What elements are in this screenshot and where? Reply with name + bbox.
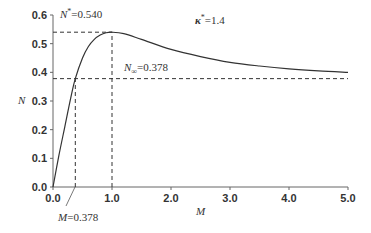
y-axis-label: N [17, 94, 26, 106]
reference-lines [53, 32, 348, 187]
annotation-n-inf: N∞=0.378 [123, 61, 169, 76]
y-tick-label: 0.3 [32, 95, 47, 107]
x-axis-label: M [195, 205, 206, 217]
y-tick-label: 0.2 [32, 124, 47, 136]
y-tick-label: 0.6 [32, 9, 47, 21]
annotation-m: M=0.378 [57, 211, 99, 223]
x-tick-label: 4.0 [281, 192, 296, 204]
annotation-kappa: κ*=1.4 [195, 13, 225, 26]
annotation-n-star: N*=0.540 [59, 7, 103, 20]
y-tick-label: 0.4 [32, 66, 48, 78]
x-tick-label: 2.0 [163, 192, 178, 204]
chart: 0.00.10.20.30.40.50.6 0.01.02.03.04.05.0… [0, 0, 371, 233]
x-tick-label: 3.0 [222, 192, 237, 204]
x-tick-label: 5.0 [340, 192, 355, 204]
x-ticks: 0.01.02.03.04.05.0 [45, 187, 355, 204]
x-tick-label: 0.0 [45, 192, 60, 204]
data-curve [53, 32, 348, 187]
annotation-leader-line [66, 187, 75, 206]
y-ticks: 0.00.10.20.30.40.50.6 [32, 9, 53, 193]
y-tick-label: 0.1 [32, 152, 47, 164]
y-tick-label: 0.5 [32, 38, 47, 50]
x-tick-label: 1.0 [104, 192, 119, 204]
